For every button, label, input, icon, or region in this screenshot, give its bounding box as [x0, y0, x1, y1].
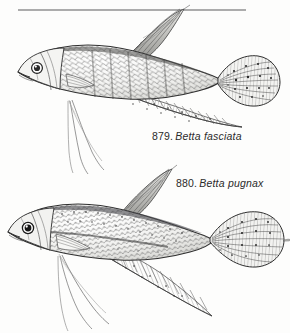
- figure-880-betta-pugnax: [8, 165, 290, 331]
- plate-canvas: 879.Betta fasciata 880.Betta pugnax: [0, 0, 290, 333]
- dorsal-fin-880: [122, 165, 177, 218]
- caption-879-species: Betta fasciata: [173, 130, 241, 142]
- caption-880-number: 880.: [176, 177, 197, 189]
- caudal-fin-879: [218, 56, 280, 106]
- eye-880: [22, 222, 33, 233]
- caption-880-species: Betta pugnax: [197, 177, 263, 189]
- caudal-fin-880: [210, 212, 290, 267]
- figure-879-betta-fasciata: [18, 5, 280, 174]
- eye-879: [32, 63, 43, 74]
- fish-plate-illustration: [0, 0, 290, 333]
- pelvic-fin-879: [67, 99, 104, 174]
- caption-879-number: 879.: [152, 130, 173, 142]
- caption-figure-880: 880.Betta pugnax: [176, 177, 264, 189]
- body-880: [8, 204, 214, 260]
- pelvic-fin-880: [57, 253, 109, 331]
- caption-figure-879: 879.Betta fasciata: [152, 130, 242, 142]
- body-879: [18, 45, 222, 99]
- dorsal-fin-879: [132, 5, 190, 58]
